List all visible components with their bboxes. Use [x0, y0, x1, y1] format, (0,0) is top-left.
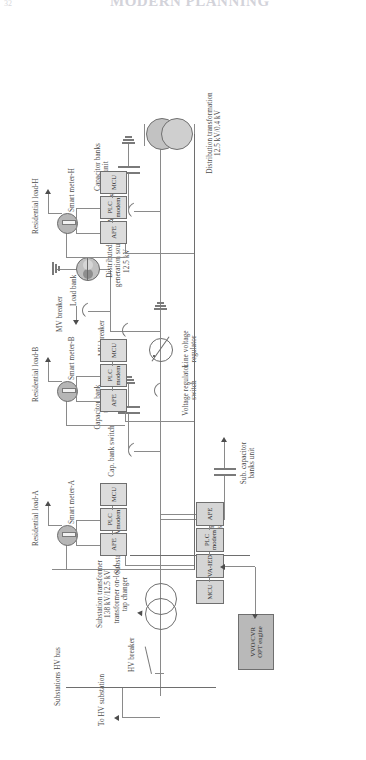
customer-h-bus-drop [125, 253, 194, 254]
hv-bus-label: Substations HV bus [54, 647, 62, 706]
sub-capbank-arrow-icon [221, 437, 227, 442]
sub-capacitor-icon [214, 467, 236, 476]
substation-module-afe[interactable]: AFE [196, 502, 224, 526]
smart-meter-h-icon [57, 213, 78, 234]
customer-b-mod-link2 [112, 362, 113, 366]
afe-sense-riser [160, 514, 196, 515]
header-title: MODERN PLANNING [110, 0, 270, 10]
residential-load-h-label: Residential load-H [32, 178, 40, 234]
mv-breaker-3-icon[interactable] [128, 201, 141, 220]
customer-h-tap-riser [66, 257, 125, 258]
customer-h-out-riser [48, 213, 62, 214]
customer-a-module-afe[interactable]: AFE [100, 533, 127, 556]
customer-b-out-riser [48, 381, 62, 382]
customer-a-module-mcu[interactable]: MCU [100, 483, 127, 506]
customer-a-bus-drop [125, 565, 194, 566]
mv-bus-line [130, 555, 250, 556]
lv-secondary-bus [194, 134, 195, 570]
dg-ground-icon [52, 262, 60, 275]
customer-h-mod-link1 [112, 219, 113, 223]
dist-xf-primary-tick [144, 124, 145, 146]
customer-b-module-afe[interactable]: AFE [100, 389, 127, 412]
sub-capbank-tail [224, 440, 225, 468]
customer-h-module-plc-modem[interactable]: PLC modem [100, 196, 127, 219]
hv-breaker-label: HV breaker [128, 637, 136, 672]
capbanks2-tail [128, 142, 129, 166]
customer-h-plc-to-lv [76, 208, 100, 209]
customer-b-module-plc-modem[interactable]: PLC modem [100, 364, 127, 387]
substation-module-mcu[interactable]: MCU [196, 580, 224, 604]
sub-capbank-lead [224, 474, 225, 520]
feeder-capbank-tail [128, 382, 129, 406]
residential-load-b-arrow-icon [45, 357, 51, 362]
page-number: 32 [4, 0, 12, 8]
capbanks2-lead [128, 172, 129, 212]
customer-b-meter-to-afe [76, 401, 100, 402]
customer-a-out [48, 504, 49, 526]
distributed-generation-icon [76, 257, 100, 281]
feeder-capbank-switch-icon[interactable] [128, 441, 141, 460]
residential-load-h-arrow-icon [45, 189, 51, 194]
single-line-diagram: To HV substation Substations HV bus HV b… [10, 20, 356, 752]
customer-b-module-mcu[interactable]: MCU [100, 339, 127, 362]
page-header: 32 MODERN PLANNING [0, 0, 366, 14]
smart-meter-a-label: Smart meter-A [68, 480, 76, 524]
residential-load-a-label: Residential load-A [32, 490, 40, 546]
smart-meter-b-icon [57, 381, 78, 402]
residential-load-a-arrow-icon [45, 501, 51, 506]
hv-breaker-blade [145, 646, 152, 674]
customer-h-plc-jog [76, 209, 77, 234]
loadbank-lead [76, 306, 77, 320]
vreg-ground-icon [154, 300, 167, 310]
mvbreaker1-riser [110, 331, 160, 332]
customer-a-bus-link [125, 556, 126, 566]
customer-b-out [48, 360, 49, 382]
customer-a-mod-link2 [112, 506, 113, 510]
substation-transformer-icon [145, 584, 177, 630]
source-lead [122, 688, 123, 718]
customer-a-mod-link1 [112, 531, 113, 535]
sub-capbank-unit-label: Sub. capacitor banks unit [240, 426, 257, 500]
customer-a-meter-to-afe [76, 545, 100, 546]
customer-h-out [48, 192, 49, 214]
vaied-up-arrow-icon [220, 564, 225, 570]
capbanks2-ground-icon [122, 134, 135, 144]
customer-b-plc-to-lv [76, 376, 100, 377]
vreg-tail [160, 308, 161, 340]
line-voltage-regulator-icon [149, 338, 173, 362]
customer-a-plc-jog [76, 521, 77, 546]
customer-a-out-riser [48, 525, 62, 526]
customer-h-module-mcu[interactable]: MCU [100, 171, 127, 194]
module-link-plc-afe [209, 526, 210, 530]
hv-bus-line [66, 687, 216, 688]
engine-feed-line [255, 567, 256, 616]
vvo-cvr-engine-box[interactable]: VVO/CVR OPT engine [238, 614, 274, 670]
tap-changer-arrow-icon [137, 609, 145, 617]
source-label: To HV substation [98, 674, 106, 726]
vaied-down [222, 566, 255, 567]
lv-bus-riser [52, 569, 194, 570]
source-riser [122, 717, 160, 718]
customer-b-plc-jog [76, 377, 77, 402]
distribution-transformer-icon [146, 120, 192, 150]
residential-load-b-label: Residential load-B [32, 347, 40, 403]
mv-breaker-2-icon[interactable] [82, 301, 95, 320]
engine-input-arrow-icon [252, 614, 258, 619]
load-bank-label: Load bank [70, 275, 78, 306]
figure-frame: To HV substation Substations HV bus HV b… [10, 20, 356, 752]
load-bank-arrow-icon [73, 320, 79, 325]
customer-h-meter-to-afe [76, 233, 100, 234]
voltage-regulator-switch-icon[interactable] [154, 381, 167, 400]
module-link-vaied-plc [209, 552, 210, 556]
mv-breaker-1-icon[interactable] [122, 321, 135, 340]
customer-h-module-afe[interactable]: AFE [100, 221, 127, 244]
customer-b-mod-link1 [112, 387, 113, 391]
customer-b-bus-link [125, 412, 126, 422]
substation-module-plc-modem[interactable]: PLC modem [196, 528, 224, 552]
distribution-transformer-label: Distribution transformation 12.5 kV/0.4 … [206, 82, 223, 184]
customer-h-bus-link [125, 244, 126, 254]
customer-a-plc-to-lv [76, 520, 100, 521]
customer-a-module-plc-modem[interactable]: PLC modem [100, 508, 127, 531]
smart-meter-b-label: Smart meter-B [68, 336, 76, 380]
feeder-capbank-lead [128, 412, 129, 452]
